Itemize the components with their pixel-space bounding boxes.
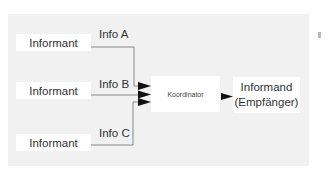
coordinator-label: Koordinator <box>167 91 203 98</box>
recipient-box: Informand (Empfänger) <box>233 77 300 113</box>
arrow-head-a <box>138 82 151 90</box>
cursor-icon <box>318 32 321 38</box>
recipient-sublabel: (Empfänger) <box>235 95 299 110</box>
recipient-label: Informand <box>241 80 293 95</box>
arrow-head-c <box>138 98 151 106</box>
arrow-head-out <box>221 93 233 100</box>
arrow-head-b <box>138 91 151 99</box>
coordinator-box: Koordinator <box>151 76 220 112</box>
